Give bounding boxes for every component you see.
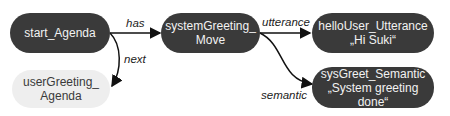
node-system-greeting-move: systemGreeting_ Move [161, 13, 260, 53]
edge-next-arrow [110, 33, 119, 86]
node-label: done“ [358, 95, 389, 109]
node-label: Agenda [40, 89, 81, 103]
edge-label-utterance: utterance [262, 16, 310, 28]
edge-label-semantic: semantic [261, 89, 307, 101]
node-label: „System greeting [328, 81, 419, 95]
node-start-agenda: start_Agenda [10, 13, 110, 53]
edge-label-next: next [124, 53, 146, 65]
node-label: helloUser_Utterance [318, 19, 427, 33]
node-label: userGreeting_ [23, 75, 99, 89]
edge-semantic-arrow [260, 33, 312, 84]
node-label: start_Agenda [24, 26, 95, 40]
node-label: „Hi Suki“ [350, 33, 396, 47]
node-hello-user-utterance: helloUser_Utterance „Hi Suki“ [312, 13, 434, 53]
node-sys-greet-semantic: sysGreet_Semantic „System greeting done“ [312, 67, 434, 108]
node-label: Move [196, 33, 225, 47]
node-label: sysGreet_Semantic [321, 67, 426, 81]
node-user-greeting-agenda: userGreeting_ Agenda [12, 70, 110, 108]
edge-label-has: has [126, 17, 145, 29]
node-label: systemGreeting_ [165, 19, 256, 33]
